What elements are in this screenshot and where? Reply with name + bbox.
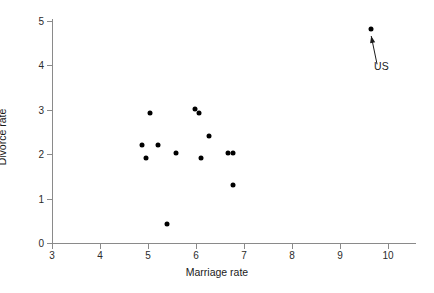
- data-point: [197, 111, 202, 116]
- data-point: [198, 156, 203, 161]
- data-point: [173, 151, 178, 156]
- data-point: [155, 143, 160, 148]
- data-point: [369, 26, 374, 31]
- scatter-plot-figure: 345678910 012345 Marriage rate Divorce r…: [0, 0, 434, 293]
- plot-data-area: [0, 0, 434, 293]
- data-point: [165, 221, 170, 226]
- data-point: [231, 182, 236, 187]
- data-point: [207, 133, 212, 138]
- data-point: [143, 156, 148, 161]
- data-point: [140, 143, 145, 148]
- data-point: [148, 111, 153, 116]
- data-point: [230, 150, 235, 155]
- us-annotation-label: US: [374, 60, 389, 72]
